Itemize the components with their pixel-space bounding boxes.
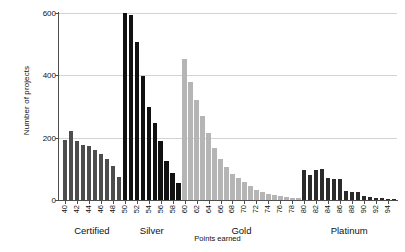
x-tick-label: 72 <box>252 205 260 213</box>
x-tick-label: 64 <box>205 205 213 213</box>
bar-chart: Number of projects 0200400600 4042444648… <box>0 0 405 252</box>
x-tick-label: 54 <box>145 205 153 213</box>
x-tick-mark <box>113 201 114 204</box>
bar <box>153 123 157 200</box>
x-tick-label: 52 <box>133 205 141 213</box>
bar <box>356 192 360 200</box>
bar <box>350 192 354 200</box>
bar <box>260 192 264 200</box>
x-tick-mark <box>89 201 90 204</box>
x-tick-label: 56 <box>157 205 165 213</box>
bar <box>338 179 342 200</box>
bar <box>129 15 133 200</box>
x-tick-mark <box>173 201 174 204</box>
bar <box>206 133 210 200</box>
bar <box>374 198 378 200</box>
x-tick-label: 84 <box>324 205 332 213</box>
bar <box>81 145 85 200</box>
x-tick-label: 86 <box>336 205 344 213</box>
bar <box>278 196 282 200</box>
bar <box>87 146 91 200</box>
x-tick-label: 62 <box>193 205 201 213</box>
x-tick-label: 82 <box>312 205 320 213</box>
bar <box>308 175 312 200</box>
x-tick-label: 80 <box>300 205 308 213</box>
group-label-certified: Certified <box>74 225 109 236</box>
x-tick-mark <box>256 201 257 204</box>
x-tick-mark <box>65 201 66 204</box>
bar <box>368 197 372 200</box>
x-tick-mark <box>244 201 245 204</box>
y-tick-mark <box>55 75 59 76</box>
x-tick-mark <box>292 201 293 204</box>
bar <box>254 190 258 200</box>
bar <box>290 198 294 200</box>
bar <box>344 191 348 200</box>
x-tick-mark <box>232 201 233 204</box>
bar <box>392 199 396 200</box>
bar <box>147 107 151 201</box>
x-tick-mark <box>376 201 377 204</box>
x-tick-label: 94 <box>384 205 392 213</box>
x-tick-label: 68 <box>228 205 236 213</box>
x-tick-mark <box>77 201 78 204</box>
x-tick-label: 48 <box>109 205 117 213</box>
group-label-silver: Silver <box>140 225 164 236</box>
group-label-platinum: Platinum <box>331 225 368 236</box>
x-tick-mark <box>161 201 162 204</box>
bar <box>248 186 252 200</box>
bar <box>236 178 240 200</box>
x-tick-label: 90 <box>360 205 368 213</box>
y-tick-label: 400 <box>43 71 56 80</box>
x-tick-mark <box>304 201 305 204</box>
bar <box>212 148 216 200</box>
x-tick-mark <box>125 201 126 204</box>
bar <box>99 154 103 200</box>
bar <box>266 194 270 200</box>
y-tick-mark <box>55 13 59 14</box>
x-tick-label: 78 <box>288 205 296 213</box>
bar <box>362 196 366 200</box>
bar <box>224 167 228 200</box>
plot-area <box>59 13 397 200</box>
bar <box>284 197 288 200</box>
x-tick-label: 58 <box>169 205 177 213</box>
x-tick-mark <box>209 201 210 204</box>
bar <box>75 141 79 200</box>
bar <box>200 116 204 200</box>
bar <box>176 183 180 200</box>
bar <box>296 198 300 200</box>
x-tick-label: 44 <box>85 205 93 213</box>
x-tick-mark <box>101 201 102 204</box>
bar <box>326 178 330 200</box>
y-tick-label: 600 <box>43 9 56 18</box>
x-tick-mark <box>137 201 138 204</box>
x-axis-title: Points earned <box>194 234 240 243</box>
bar <box>302 170 306 200</box>
bar <box>105 159 109 200</box>
bar <box>111 166 115 200</box>
x-tick-label: 40 <box>61 205 69 213</box>
x-tick-mark <box>316 201 317 204</box>
bar <box>272 195 276 200</box>
bar <box>188 82 192 200</box>
bar <box>141 76 145 200</box>
x-tick-mark <box>364 201 365 204</box>
bar <box>93 150 97 200</box>
bar <box>386 199 390 200</box>
x-tick-label: 74 <box>264 205 272 213</box>
x-tick-mark <box>197 201 198 204</box>
x-tick-label: 50 <box>121 205 129 213</box>
bar <box>135 42 139 200</box>
x-tick-mark <box>185 201 186 204</box>
x-tick-mark <box>328 201 329 204</box>
bar <box>380 198 384 200</box>
x-tick-label: 88 <box>348 205 356 213</box>
bar <box>218 159 222 200</box>
bar <box>170 173 174 200</box>
x-tick-label: 46 <box>97 205 105 213</box>
x-tick-mark <box>388 201 389 204</box>
bar <box>320 169 324 200</box>
x-tick-label: 60 <box>181 205 189 213</box>
x-tick-label: 66 <box>217 205 225 213</box>
